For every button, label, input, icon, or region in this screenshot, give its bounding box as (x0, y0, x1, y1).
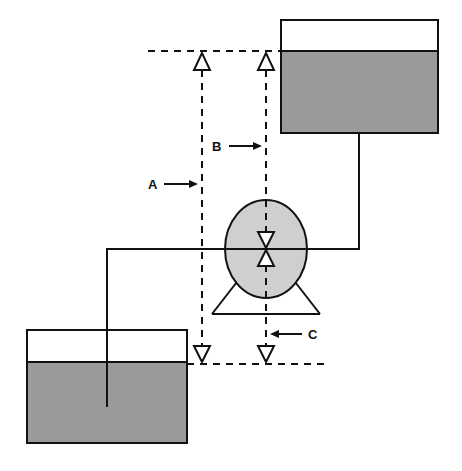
label-c: C (308, 327, 318, 342)
upper-tank (281, 20, 438, 133)
pump-head-diagram: A B C (0, 0, 462, 471)
top-level-marker-a-icon (194, 53, 210, 70)
label-a: A (148, 177, 158, 192)
label-b: B (212, 139, 221, 154)
bottom-level-marker-c-icon (258, 346, 274, 362)
bottom-level-marker-a-icon (194, 346, 210, 362)
top-level-marker-b-icon (258, 53, 274, 70)
